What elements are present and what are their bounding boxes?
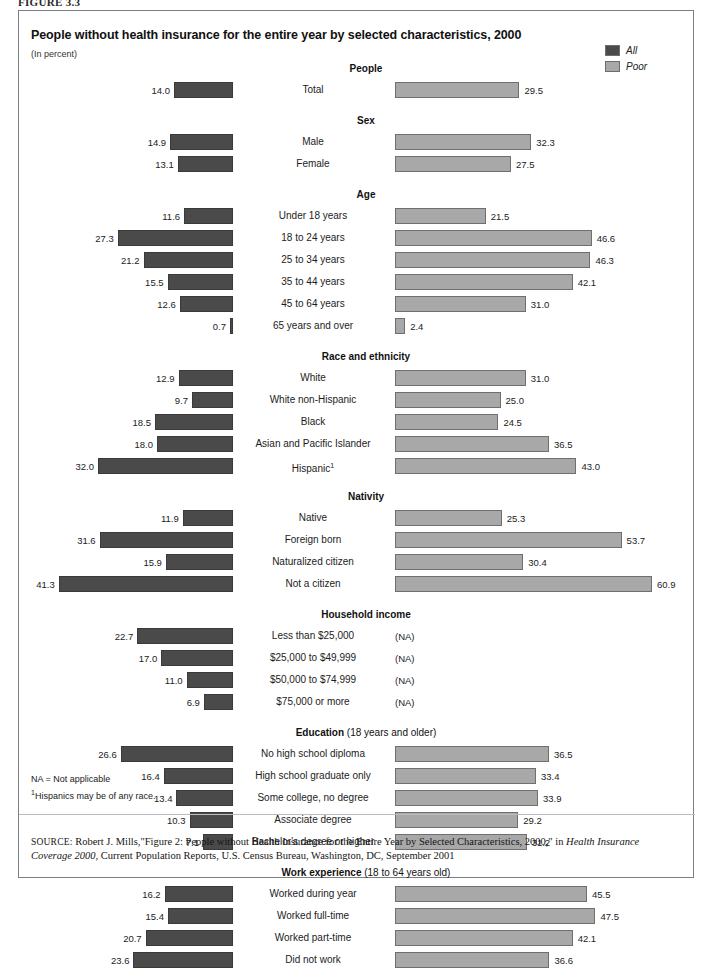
category-label: Associate degree: [233, 809, 393, 831]
category-label: Total: [233, 79, 393, 101]
bar-value-poor: 36.5: [554, 439, 573, 450]
bar-value-poor-na: (NA): [395, 697, 415, 708]
bar-group-poor: 21.5: [395, 205, 509, 227]
section-heading-text: Household income: [321, 609, 410, 620]
chart-row: 17.0$25,000 to $49,999(NA): [19, 647, 695, 669]
category-label: Less than $25,000: [233, 625, 393, 647]
bar-group-poor: 53.7: [395, 529, 645, 551]
category-label: Worked during year: [233, 883, 393, 905]
bar-value-poor: 42.1: [578, 933, 597, 944]
bar-group-all: 6.9: [19, 691, 233, 713]
section-heading-text: Work experience: [282, 867, 362, 878]
section-heading-row: Age: [19, 183, 695, 205]
bar-value-poor: 33.4: [541, 771, 560, 782]
bar-group-all: 16.2: [19, 883, 233, 905]
bar-group-all: 15.9: [19, 551, 233, 573]
chart-footnotes: NA = Not applicable 1Hispanics may be of…: [31, 773, 155, 803]
bar-all: [164, 768, 233, 784]
bar-group-all: 12.9: [19, 367, 233, 389]
source-text-1: Robert J. Mills,"Figure 2: People withou…: [73, 836, 567, 847]
bar-value-all: 11.9: [161, 513, 179, 524]
bar-value-poor: 27.5: [516, 159, 535, 170]
bar-all: [187, 672, 233, 688]
bar-poor: [395, 82, 519, 98]
bar-all: [118, 230, 233, 246]
section-heading-row: Education (18 years and older): [19, 721, 695, 743]
category-label: Female: [233, 153, 393, 175]
category-label: White non-Hispanic: [233, 389, 393, 411]
bar-value-all: 18.0: [135, 439, 154, 450]
bar-group-all: 18.0: [19, 433, 233, 455]
legend-swatch-all-icon: [605, 45, 620, 56]
bar-all: [161, 650, 233, 666]
bar-poor: [395, 156, 511, 172]
chart-row: 18.5Black24.5: [19, 411, 695, 433]
bar-value-poor: 47.5: [600, 911, 619, 922]
bar-value-all: 15.4: [146, 911, 165, 922]
bar-group-poor: (NA): [395, 647, 415, 669]
figure-label: FIGURE 3.3: [18, 0, 80, 8]
bar-group-all: 18.5: [19, 411, 233, 433]
section-spacer: [19, 175, 695, 183]
bar-all: [168, 274, 233, 290]
bar-poor: [395, 252, 590, 268]
bar-group-poor: (NA): [395, 691, 415, 713]
category-label: Worked full-time: [233, 905, 393, 927]
section-heading-text: Nativity: [348, 491, 384, 502]
section-heading-text: Sex: [357, 115, 375, 126]
bar-value-poor: 31.0: [531, 299, 550, 310]
bar-value-poor: 25.3: [507, 513, 526, 524]
chart-row: 21.225 to 34 years46.3: [19, 249, 695, 271]
bar-value-all: 32.0: [75, 461, 94, 472]
bar-value-poor: 33.9: [543, 793, 562, 804]
bar-value-all: 9.7: [175, 395, 188, 406]
bar-all: [165, 886, 233, 902]
bar-group-poor: 36.5: [395, 743, 573, 765]
bar-all: [100, 532, 233, 548]
category-label: Asian and Pacific Islander: [233, 433, 393, 455]
bar-group-all: 23.6: [19, 949, 233, 971]
bar-value-all: 31.6: [77, 535, 96, 546]
bar-group-all: 15.4: [19, 905, 233, 927]
section-heading-text: People: [350, 63, 383, 74]
bar-poor: [395, 436, 549, 452]
bar-value-poor: 36.6: [554, 955, 573, 966]
bar-group-all: 26.6: [19, 743, 233, 765]
bar-poor: [395, 134, 531, 150]
bar-value-poor: 45.5: [592, 889, 611, 900]
chart-row: 12.645 to 64 years31.0: [19, 293, 695, 315]
category-label: Not a citizen: [233, 573, 393, 595]
chart-row: 10.3Associate degree29.2: [19, 809, 695, 831]
bar-group-all: 11.6: [19, 205, 233, 227]
bar-value-all: 12.9: [156, 373, 175, 384]
section-heading-text: Age: [357, 189, 376, 200]
section-heading: Nativity: [19, 491, 695, 502]
section-heading-row: Work experience (18 to 64 years old): [19, 861, 695, 883]
section-heading-row: Household income: [19, 603, 695, 625]
bar-all: [183, 510, 233, 526]
bar-group-poor: 25.3: [395, 507, 525, 529]
bar-value-poor: 25.0: [506, 395, 525, 406]
bar-value-poor: 46.6: [597, 233, 616, 244]
chart-row: 13.1Female27.5: [19, 153, 695, 175]
section-heading: Education (18 years and older): [19, 727, 695, 738]
chart-row: 26.6No high school diploma36.5: [19, 743, 695, 765]
section-spacer: [19, 337, 695, 345]
bar-value-poor: 21.5: [491, 211, 510, 222]
section-spacer: [19, 713, 695, 721]
bar-value-all: 13.1: [155, 159, 174, 170]
bar-group-all: 20.7: [19, 927, 233, 949]
section-heading-subtext: (18 years and older): [344, 727, 436, 738]
bar-all: [59, 576, 233, 592]
bar-all: [170, 134, 233, 150]
bar-all: [168, 908, 233, 924]
section-heading-subtext: (18 to 64 years old): [361, 867, 450, 878]
category-label: No high school diploma: [233, 743, 393, 765]
bar-value-poor: 31.0: [531, 373, 550, 384]
bar-poor: [395, 370, 526, 386]
chart-row: 18.0Asian and Pacific Islander36.5: [19, 433, 695, 455]
category-label: 18 to 24 years: [233, 227, 393, 249]
bar-poor: [395, 746, 549, 762]
bar-group-all: 10.3: [19, 809, 233, 831]
bar-value-poor: 29.2: [523, 815, 542, 826]
